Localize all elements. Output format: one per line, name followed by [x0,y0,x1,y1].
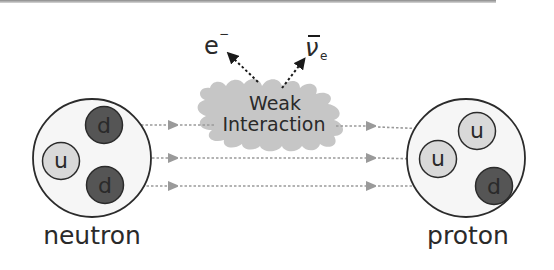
quark-d-top: d [86,107,123,144]
svg-text:ν: ν [305,34,318,62]
svg-text:e: e [204,32,219,60]
svg-text:u: u [431,146,445,171]
weak-interaction-line1: Weak [249,92,301,114]
proton-label: proton [427,221,509,250]
beta-decay-diagram: e − ν e Weak Interaction d u [0,0,554,270]
neutron-label: neutron [43,221,141,250]
svg-text:d: d [487,174,501,199]
weak-interaction-line2: Interaction [222,113,325,135]
proton: u u d [407,99,525,217]
svg-text:u: u [470,118,484,143]
svg-text:e: e [320,49,327,63]
quark-u: u [43,143,80,180]
quark-u-top: u [459,113,496,150]
electron-label: e − [204,27,229,60]
antineutrino-label: ν e [305,34,327,63]
quark-d-bottom: d [87,167,124,204]
svg-text:−: − [219,27,229,41]
svg-text:d: d [98,173,112,198]
svg-text:u: u [54,148,68,173]
svg-text:d: d [97,113,111,138]
electron-emission-arrow [231,56,258,82]
neutron: d u d [33,99,151,217]
quark-d: d [476,168,513,205]
quark-u-left: u [420,141,457,178]
